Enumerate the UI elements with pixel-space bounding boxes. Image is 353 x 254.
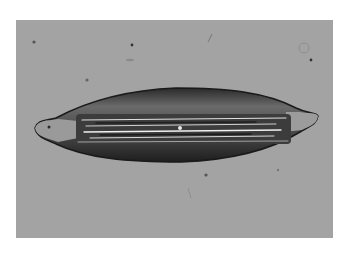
micrograph [16, 20, 333, 238]
crystal-figure [16, 20, 333, 238]
